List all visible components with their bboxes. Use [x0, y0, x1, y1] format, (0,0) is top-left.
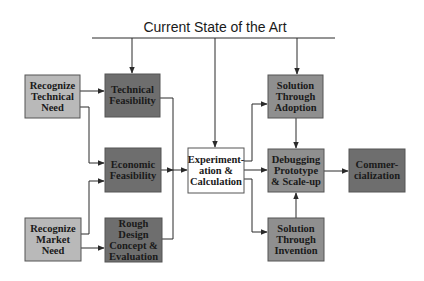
node-label-line: Solution [277, 80, 315, 91]
node-solution-invention: SolutionThroughInvention [268, 218, 324, 261]
node-rough-design: RoughDesignConcept &Evaluation [105, 218, 162, 263]
node-label-line: Calculation [190, 176, 242, 187]
node-label-line: Adoption [274, 102, 316, 113]
node-label-line: ation & [199, 165, 233, 176]
node-recognize-market-need: RecognizeMarketNeed [25, 218, 81, 261]
edge-experimentation-to-solution-invention [244, 179, 267, 232]
node-label-line: Through [276, 91, 316, 102]
innovation-process-diagram: Current State of the Art RecognizeTechni… [0, 0, 424, 281]
edge-experimentation-to-solution-adoption [244, 104, 267, 161]
node-label-line: Evaluation [109, 251, 158, 262]
edge-technical-need-to-economic-feasibility [80, 107, 104, 163]
node-label-line: Technical [111, 84, 154, 95]
node-label-line: Invention [274, 245, 317, 256]
node-commercialization: Commer-cialization [349, 149, 405, 192]
node-label-line: cialization [354, 170, 400, 181]
node-label-line: Through [276, 234, 316, 245]
node-label-line: Solution [277, 223, 315, 234]
edge-technical-feasibility-to-experimentation [160, 98, 173, 170]
node-label-line: & Scale-up [271, 176, 321, 187]
node-label-line: Experiment- [188, 154, 245, 165]
node-label-line: Debugging [272, 154, 321, 165]
node-label-line: Commer- [356, 159, 399, 170]
node-label-line: Feasibility [110, 170, 157, 181]
node-technical-feasibility: TechnicalFeasibility [105, 74, 160, 117]
node-label-line: Need [41, 102, 64, 113]
node-label-line: Concept & [109, 240, 158, 251]
node-label-line: Feasibility [109, 95, 156, 106]
node-debugging: DebuggingPrototype& Scale-up [268, 149, 324, 192]
node-label-line: Recognize [30, 223, 76, 234]
node-experimentation: Experiment-ation &Calculation [188, 148, 245, 193]
edge-rough-design-to-experimentation [162, 170, 173, 239]
connectors [80, 38, 348, 248]
node-label-line: Recognize [30, 80, 76, 91]
diagram-title: Current State of the Art [143, 19, 286, 35]
node-recognize-technical-need: RecognizeTechnicalNeed [25, 75, 80, 118]
edge-market-need-to-economic-feasibility [81, 181, 104, 234]
node-label-line: Rough [119, 218, 149, 229]
node-label-line: Design [118, 229, 148, 240]
node-label-line: Need [42, 245, 65, 256]
node-label-line: Market [36, 234, 70, 245]
node-economic-feasibility: EconomicFeasibility [105, 148, 161, 192]
node-label-line: Prototype [274, 165, 318, 176]
node-solution-adoption: SolutionThroughAdoption [268, 75, 323, 118]
node-label-line: Economic [111, 159, 156, 170]
node-label-line: Technical [31, 91, 74, 102]
